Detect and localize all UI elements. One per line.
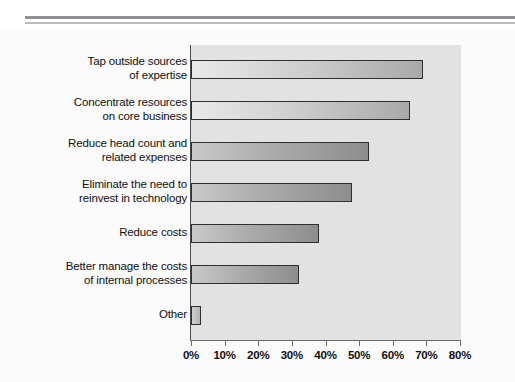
- bar-chart-figure: Tap outside sourcesof expertiseConcentra…: [0, 0, 515, 382]
- bar-row: Concentrate resourceson core business: [0, 90, 515, 131]
- category-label: Other: [11, 308, 187, 322]
- x-axis-tick: [191, 340, 192, 346]
- x-axis-tick: [460, 340, 461, 346]
- category-label: Better manage the costsof internal proce…: [11, 260, 187, 287]
- x-axis-tick: [258, 340, 259, 346]
- x-axis-tick: [292, 340, 293, 346]
- x-axis-tick: [326, 340, 327, 346]
- x-axis-tick: [225, 340, 226, 346]
- x-axis-tick: [359, 340, 360, 346]
- bar: [191, 101, 410, 120]
- bar: [191, 60, 423, 79]
- category-label: Tap outside sourcesof expertise: [11, 55, 187, 82]
- category-label: Eliminate the need toreinvest in technol…: [11, 178, 187, 205]
- rule-thick-line: [25, 16, 515, 19]
- top-decorative-rule: [25, 16, 515, 27]
- x-axis-ticks-container: 0%10%20%30%40%50%60%70%80%: [0, 340, 515, 380]
- x-axis-tick: [393, 340, 394, 346]
- chart-canvas: Tap outside sourcesof expertiseConcentra…: [0, 30, 515, 382]
- category-label: Concentrate resourceson core business: [11, 96, 187, 123]
- bar-row: Better manage the costsof internal proce…: [0, 254, 515, 295]
- bar-row: Other: [0, 295, 515, 336]
- bar: [191, 142, 369, 161]
- bar-row: Eliminate the need toreinvest in technol…: [0, 172, 515, 213]
- bar-row: Tap outside sourcesof expertise: [0, 49, 515, 90]
- bar-rows-container: Tap outside sourcesof expertiseConcentra…: [0, 45, 515, 340]
- x-axis-tick: [426, 340, 427, 346]
- x-axis-tick-label: 80%: [437, 349, 483, 361]
- bar-row: Reduce costs: [0, 213, 515, 254]
- bar: [191, 306, 201, 325]
- category-label: Reduce costs: [11, 226, 187, 240]
- bar-row: Reduce head count andrelated expenses: [0, 131, 515, 172]
- category-label: Reduce head count andrelated expenses: [11, 137, 187, 164]
- rule-thin-line: [25, 22, 515, 24]
- bar: [191, 224, 319, 243]
- bar: [191, 183, 352, 202]
- bar: [191, 265, 299, 284]
